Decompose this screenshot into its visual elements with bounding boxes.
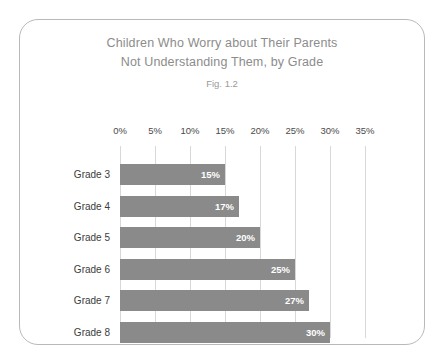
chart-subtitle: Fig. 1.2	[20, 75, 424, 93]
bar-value-label: 17%	[215, 201, 239, 212]
chart-row: Grade 417%	[120, 196, 365, 217]
category-label: Grade 7	[74, 290, 110, 311]
x-axis-tick-label: 30%	[320, 125, 339, 136]
bar: 17%	[120, 196, 239, 217]
bar: 15%	[120, 164, 225, 185]
category-label: Grade 5	[74, 227, 110, 248]
category-label: Grade 8	[74, 322, 110, 343]
chart-title-line-1: Children Who Worry about Their Parents	[20, 34, 424, 53]
bar-value-label: 30%	[306, 327, 330, 338]
chart-row: Grade 830%	[120, 322, 365, 343]
x-axis-tick-label: 35%	[355, 125, 374, 136]
bar: 30%	[120, 322, 330, 343]
bar: 27%	[120, 290, 309, 311]
x-axis-tick-label: 0%	[113, 125, 127, 136]
x-axis-tick-label: 5%	[148, 125, 162, 136]
x-axis-tick-label: 10%	[180, 125, 199, 136]
category-label: Grade 6	[74, 259, 110, 280]
category-label: Grade 3	[74, 164, 110, 185]
bar-value-label: 27%	[285, 295, 309, 306]
chart-row: Grade 727%	[120, 290, 365, 311]
x-axis-tick-label: 25%	[285, 125, 304, 136]
bar: 20%	[120, 227, 260, 248]
gridline	[365, 146, 366, 338]
chart-row: Grade 520%	[120, 227, 365, 248]
bar-value-label: 25%	[271, 264, 295, 275]
bar-value-label: 20%	[236, 232, 260, 243]
chart-title-line-2: Not Understanding Them, by Grade	[20, 53, 424, 72]
x-axis-tick-label: 20%	[250, 125, 269, 136]
chart-row: Grade 315%	[120, 164, 365, 185]
chart-row: Grade 625%	[120, 259, 365, 280]
x-axis-tick-label: 15%	[215, 125, 234, 136]
bar-value-label: 15%	[201, 169, 225, 180]
plot-area: 0%5%10%15%20%25%30%35%Grade 315%Grade 41…	[120, 146, 365, 338]
figure-card: Children Who Worry about Their Parents N…	[19, 19, 425, 345]
category-label: Grade 4	[74, 196, 110, 217]
bar: 25%	[120, 259, 295, 280]
chart-title-block: Children Who Worry about Their Parents N…	[20, 34, 424, 93]
